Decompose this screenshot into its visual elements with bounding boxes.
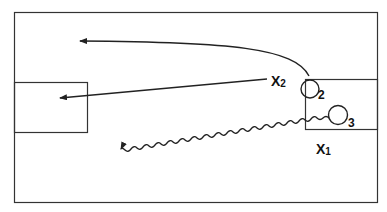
diagram-canvas: X2 X1 2 3 xyxy=(0,0,387,212)
play-diagram: X2 X1 2 3 xyxy=(0,0,387,212)
player-3-label: 3 xyxy=(348,116,355,130)
player-2-label: 2 xyxy=(318,88,325,102)
player-3-circle xyxy=(329,106,348,125)
defender-x1-label: X1 xyxy=(316,141,331,157)
dribble-wavy-arrow xyxy=(121,117,329,152)
defender-x2-label: X2 xyxy=(271,73,286,89)
player-2-circle xyxy=(301,80,319,98)
curved-run-arrow xyxy=(80,41,309,76)
right-penalty-box xyxy=(306,80,378,130)
left-penalty-box xyxy=(15,83,88,133)
field-boundary xyxy=(15,13,378,203)
pass-arrow xyxy=(60,79,267,98)
